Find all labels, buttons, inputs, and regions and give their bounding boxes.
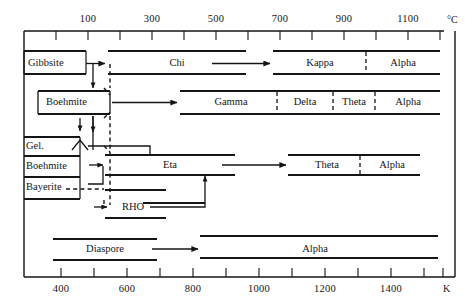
top-axis-tick-label-500: 500: [208, 14, 224, 25]
phase-label-gamma: Gamma: [214, 97, 247, 108]
source-label-gibbsite: Gibbsite: [28, 58, 64, 69]
source-label-gel: Gel.: [26, 141, 44, 152]
phase-label-theta-1: Theta: [342, 97, 366, 108]
top-axis-ticks: [56, 31, 440, 40]
top-axis-tick-label-700: 700: [272, 14, 288, 25]
phase-label-delta: Delta: [294, 97, 317, 108]
phase-label-kappa: Kappa: [306, 58, 333, 69]
phase-label-rho: RHO: [122, 202, 144, 213]
bottom-axis-tick-label-400: 400: [53, 284, 69, 295]
top-axis-unit-label: °C: [447, 15, 458, 25]
phase-label-alpha-1: Alpha: [390, 58, 416, 69]
diagram-canvas: 100 300 500 700 900 1100 °C 400 600 800 …: [0, 0, 474, 308]
source-label-boehmite-low: Boehmite: [26, 161, 67, 172]
row-rho-bars: [105, 190, 205, 218]
diagram-line-layer: [0, 0, 474, 308]
bottom-axis-tick-label-600: 600: [119, 284, 135, 295]
phase-label-eta: Eta: [163, 160, 177, 171]
top-axis-tick-label-900: 900: [336, 14, 352, 25]
source-label-bayerite: Bayerite: [26, 182, 62, 193]
phase-label-chi: Chi: [169, 58, 184, 69]
phase-label-alpha-4: Alpha: [302, 244, 328, 255]
top-axis-tick-label-100: 100: [80, 14, 96, 25]
bottom-axis-unit-label: K: [443, 284, 450, 294]
bottom-axis-tick-label-1400: 1400: [380, 284, 402, 295]
phase-label-alpha-2: Alpha: [395, 97, 421, 108]
top-axis-tick-label-300: 300: [144, 14, 160, 25]
crosslink-solid-paths: [72, 64, 150, 184]
bottom-axis-ticks: [61, 268, 443, 277]
figure-root: 100 300 500 700 900 1100 °C 400 600 800 …: [0, 0, 474, 308]
phase-label-diaspore: Diaspore: [86, 244, 124, 255]
crosslink-dashed-paths: [66, 64, 110, 207]
phase-label-alpha-3: Alpha: [379, 160, 405, 171]
bottom-axis-tick-label-800: 800: [185, 284, 201, 295]
phase-label-theta-2: Theta: [315, 160, 339, 171]
bottom-axis-tick-label-1200: 1200: [314, 284, 336, 295]
top-axis-tick-label-1100: 1100: [397, 14, 418, 25]
bottom-axis-tick-label-1000: 1000: [248, 284, 270, 295]
source-label-boehmite-top: Boehmite: [46, 97, 87, 108]
